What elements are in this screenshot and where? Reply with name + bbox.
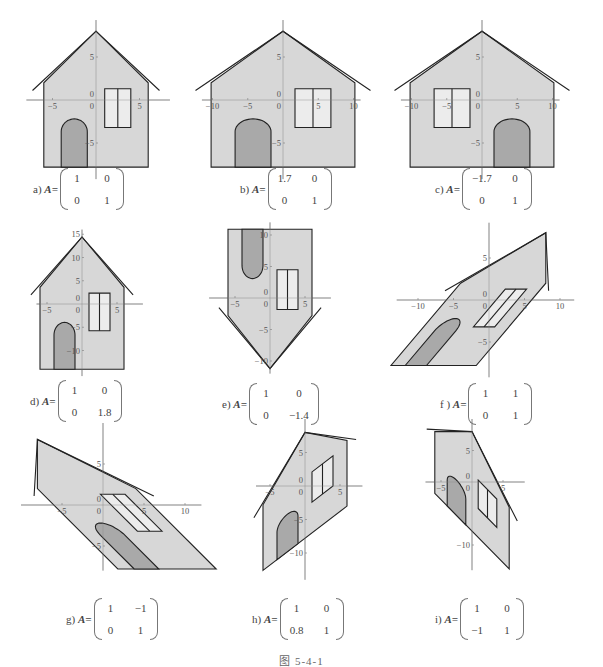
y-tick-label: −5 [272,138,281,148]
x-tick-label: −10 [405,101,418,111]
x-tick-label: 5 [515,101,519,111]
matrix-entry: 1 [104,602,118,614]
origin-label: 0 [264,299,268,309]
y-tick-label: −5 [92,541,101,551]
panel-letter: g) A= [66,613,92,625]
x-tick-label: −5 [57,506,66,516]
matrix-label-a: a) A=1001 [33,168,124,210]
panel-letter: d) A= [30,395,56,407]
matrix-entry: 1 [290,602,304,614]
x-tick-label: −10 [206,101,219,111]
matrix-entry: 1 [500,624,514,636]
matrix-label-i: i) A=10−11 [435,598,524,640]
y-tick-label: 5 [483,253,487,263]
y-tick-label: 10 [260,230,269,240]
matrix-entry: 1 [508,409,522,421]
x-tick-label: −5 [243,101,252,111]
y-tick-label: −5 [259,325,268,335]
matrix-entry: 1 [508,194,522,206]
x-tick-label: −5 [442,101,451,111]
panel-letter: c) A= [435,183,460,195]
matrix: 1001.8 [58,380,122,422]
y-tick-label: −10 [290,548,303,558]
matrix-entry: 0 [289,387,309,399]
panel-e: −55105−5−1000 [209,222,331,373]
matrix-entry: 0 [472,194,492,206]
matrix-entry: 0 [278,194,292,206]
origin-label: 0 [299,487,303,497]
x-tick-label: −5 [449,301,458,311]
matrix-entry: −1 [134,602,148,614]
matrix-label-f: f ) A=1101 [440,383,532,425]
matrix-entry: 0 [100,172,114,184]
y-tick-label: −10 [457,540,470,550]
panel-g: −55105−500 [21,423,216,571]
matrix-entry: 1 [134,624,148,636]
matrix-label-g: g) A=1−101 [66,598,158,640]
y-tick-label: −5 [294,515,303,525]
panel-d: −5515105−5−1000 [31,229,143,376]
matrix: 10−11 [460,598,524,640]
matrix-entry: 0 [500,602,514,614]
x-tick-label: 10 [349,101,358,111]
door [235,119,271,167]
matrix-label-c: c) A=−1.7001 [435,168,532,210]
origin-label: 0 [466,483,470,493]
matrix: 1−101 [94,598,158,640]
x-tick-label: 5 [316,101,320,111]
origin-label: 0 [97,494,101,504]
matrix-entry: −1.7 [472,172,492,184]
panel-i: −555−1000 [426,419,525,570]
matrix-label-e: e) A=100−1.4 [222,383,319,425]
y-tick-label: −5 [478,337,487,347]
matrix-entry: −1.4 [289,409,309,421]
origin-label: 0 [299,475,303,485]
door [494,119,530,167]
y-tick-label: 5 [90,52,94,62]
matrix-entry: 1 [68,384,82,396]
matrix: 100.81 [280,598,344,640]
matrix-entry: 1.7 [278,172,292,184]
matrix-entry: 1 [308,194,322,206]
panel-b: −10−55105−500 [196,20,371,179]
origin-label: 0 [466,471,470,481]
x-tick-label: 5 [303,299,307,309]
matrix-entry: 0 [98,384,112,396]
matrix: −1.7001 [462,168,532,210]
origin-label: 0 [90,101,94,111]
origin-label: 0 [483,301,487,311]
y-tick-label: −5 [471,138,480,148]
y-tick-label: −5 [71,322,80,332]
matrix-entry: 0 [320,602,334,614]
matrix-entry: 0 [259,409,273,421]
panel-letter: b) A= [240,183,266,195]
y-tick-label: −10 [255,356,268,366]
x-tick-label: −5 [48,101,57,111]
x-tick-label: −5 [42,305,51,315]
origin-label: 0 [277,89,281,99]
y-tick-label: 5 [476,52,480,62]
matrix-entry: 1 [320,624,334,636]
x-tick-label: 10 [548,101,557,111]
panel-letter: f ) A= [440,398,466,410]
x-tick-label: 5 [115,305,119,315]
y-tick-label: −10 [67,346,80,356]
y-tick-label: 5 [264,262,268,272]
matrix-entry: 0 [508,172,522,184]
matrix-entry: 1 [100,194,114,206]
x-tick-label: 5 [522,301,526,311]
origin-label: 0 [277,101,281,111]
x-tick-label: 10 [556,301,565,311]
matrix: 1001 [60,168,124,210]
y-tick-label: 5 [466,446,470,456]
figure-caption: 图 5-4-1 [0,652,603,667]
y-tick-label: −5 [85,138,94,148]
origin-label: 0 [76,293,80,303]
x-tick-label: −5 [230,299,239,309]
x-tick-label: 5 [501,483,505,493]
matrix-entry: 1.8 [98,406,112,418]
matrix-entry: 1 [70,172,84,184]
matrix: 1101 [468,383,532,425]
matrix-label-d: d) A=1001.8 [30,380,122,422]
origin-label: 0 [483,289,487,299]
